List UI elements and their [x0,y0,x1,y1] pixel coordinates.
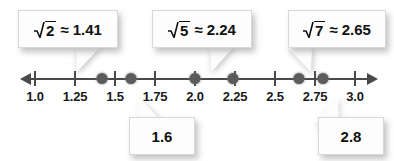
radicand-sqrt2: 2 [45,21,56,38]
callout-sqrt7-text: 7 ≈ 2.65 [303,21,371,38]
number-line-diagram: 1.0 1.25 1.5 1.75 2.0 2.25 2.5 2.75 3.0 … [0,0,394,161]
point-sqrt2 [96,73,107,84]
tick-1-0 [34,71,36,86]
tick-1-75 [154,71,156,86]
tick-label-1-25: 1.25 [63,89,88,104]
callout-sqrt2-text: 2 ≈ 1.41 [34,21,102,38]
callout-sqrt5-text: 5 ≈ 2.24 [168,21,236,38]
radical-tick-icon [303,21,314,38]
radical-tick-icon [168,21,179,38]
callout-sqrt7-tail [286,46,319,72]
callout-sqrt5-tail [202,46,234,72]
tick-label-2-0: 2.0 [186,89,203,104]
tick-2-75 [314,71,316,86]
callout-2-8-text: 2.8 [341,128,362,145]
tick-3-0 [354,71,356,86]
tick-1-5 [114,71,116,86]
radical-sign-icon: 2 [34,21,56,38]
approx-sign-sqrt2: ≈ [59,21,69,38]
point-sqrt7 [294,73,305,84]
callout-1-6[interactable]: 1.6 [129,117,195,155]
arrow-right-icon [367,73,378,85]
radicand-sqrt7: 7 [314,21,325,38]
point-2-0 [190,73,201,84]
point-sqrt5 [228,73,239,84]
tick-1-25 [74,71,76,86]
callout-sqrt7[interactable]: 7 ≈ 2.65 [288,10,386,48]
tick-label-3-0: 3.0 [346,89,363,104]
radicand-sqrt5: 5 [179,21,190,38]
radical-tick-icon [34,21,45,38]
radical-sign-icon: 5 [168,21,190,38]
point-1-6 [126,73,137,84]
approx-sign-sqrt7: ≈ [328,21,338,38]
tick-label-1-0: 1.0 [26,89,43,104]
approx-value-sqrt5: 2.24 [207,21,236,38]
callout-sqrt5[interactable]: 5 ≈ 2.24 [152,10,252,48]
tick-label-1-5: 1.5 [106,89,123,104]
approx-value-sqrt2: 1.41 [73,21,102,38]
approx-value-sqrt7: 2.65 [342,21,371,38]
approx-sign-sqrt5: ≈ [193,21,203,38]
radical-sign-icon: 7 [303,21,325,38]
point-2-8 [318,73,329,84]
callout-sqrt2[interactable]: 2 ≈ 1.41 [18,10,118,48]
tick-label-2-25: 2.25 [223,89,248,104]
tick-label-2-5: 2.5 [266,89,283,104]
callout-2-8[interactable]: 2.8 [318,117,384,155]
callout-sqrt2-tail [68,46,101,72]
callout-1-6-text: 1.6 [152,128,173,145]
tick-2-5 [274,71,276,86]
